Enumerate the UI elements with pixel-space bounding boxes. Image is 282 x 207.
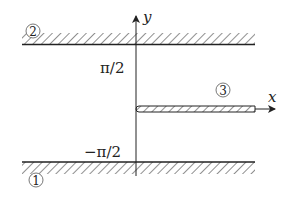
y-axis-label: y [142,8,152,26]
tick-lower-label: −π/2 [84,143,121,161]
slit-boundary [136,106,255,112]
svg-text:2: 2 [29,25,37,39]
region-1-marker: 1 [29,173,43,188]
tick-upper-label: π/2 [100,59,124,77]
x-axis-label: x [268,88,277,106]
lower-boundary [22,162,255,174]
svg-text:1: 1 [32,174,40,188]
strip-domain-diagram: y x π/2 −π/2 2 1 3 [0,0,282,207]
region-3-marker: 3 [216,83,230,98]
svg-text:3: 3 [219,84,227,98]
upper-boundary [22,33,255,45]
